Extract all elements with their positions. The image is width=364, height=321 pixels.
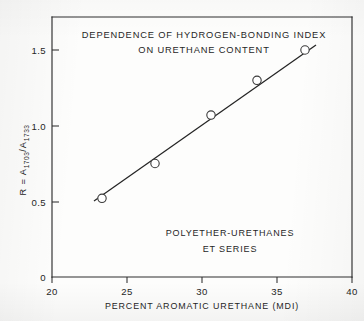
data-point (301, 46, 309, 54)
y-axis-ticks (52, 50, 59, 202)
y-ticklabel-1.0: 1.0 (31, 121, 46, 132)
y-axis-label-slash: /A (18, 141, 28, 151)
data-point (207, 111, 215, 119)
data-point (253, 76, 261, 84)
x-ticklabel-30: 30 (196, 286, 207, 297)
y-axis-label-prefix: R = A (18, 168, 28, 195)
y-axis-label: R = A1703/A1733 (18, 124, 30, 195)
y-axis-label-sub2: 1733 (23, 124, 30, 141)
chart-title-line1: DEPENDENCE OF HYDROGEN-BONDING INDEX (82, 30, 326, 40)
chart-title-line2: ON URETHANE CONTENT (138, 45, 269, 55)
x-axis-ticks (52, 277, 352, 283)
y-ticklabel-0: 0 (40, 272, 46, 283)
x-ticklabel-25: 25 (121, 286, 132, 297)
y-ticklabel-1.5: 1.5 (31, 45, 46, 56)
annotation-series-name: ET SERIES (203, 244, 258, 254)
x-ticklabel-35: 35 (271, 286, 282, 297)
annotation-series-family: POLYETHER-URETHANES (166, 228, 295, 238)
x-ticklabel-40: 40 (346, 286, 357, 297)
x-axis-label: PERCENT AROMATIC URETHANE (MDI) (105, 301, 299, 311)
y-ticklabel-0.5: 0.5 (31, 197, 46, 208)
y-axis-label-sub1: 1703 (23, 152, 30, 169)
svg-text:R = A1703/A1733: R = A1703/A1733 (18, 124, 30, 195)
trend-line (94, 45, 316, 201)
figure-container: 1.5 1.0 0.5 0 20 25 30 35 40 PERCENT ARO… (0, 0, 364, 321)
data-point (98, 194, 106, 202)
x-ticklabel-20: 20 (46, 286, 57, 297)
chart-canvas: 1.5 1.0 0.5 0 20 25 30 35 40 PERCENT ARO… (0, 0, 364, 321)
data-point (151, 159, 159, 167)
